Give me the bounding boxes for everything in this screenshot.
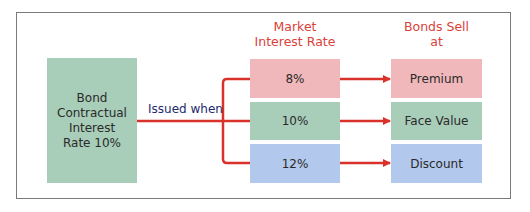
result-box-discount: Discount [391, 144, 482, 183]
bonds-sell-header-line-2: at [391, 34, 482, 49]
market-rate-header: Market Interest Rate [250, 19, 340, 49]
source-line-1: Bond [77, 91, 108, 106]
result-box-premium: Premium [391, 59, 482, 98]
issued-when-label: Issued when [148, 102, 223, 116]
market-rate-header-line-1: Market [250, 19, 340, 34]
rate-box-12: 12% [250, 144, 340, 183]
source-line-3: Interest [69, 121, 115, 136]
source-line-2: Contractual [57, 106, 127, 121]
rate-box-10: 10% [250, 102, 340, 140]
bonds-sell-header-line-1: Bonds Sell [391, 19, 482, 34]
result-box-face-value: Face Value [391, 102, 482, 140]
bonds-sell-header: Bonds Sell at [391, 19, 482, 49]
market-rate-header-line-2: Interest Rate [250, 34, 340, 49]
source-box-bond-contractual-rate: Bond Contractual Interest Rate 10% [47, 58, 137, 183]
rate-box-8: 8% [250, 59, 340, 98]
source-line-4: Rate 10% [63, 136, 121, 151]
